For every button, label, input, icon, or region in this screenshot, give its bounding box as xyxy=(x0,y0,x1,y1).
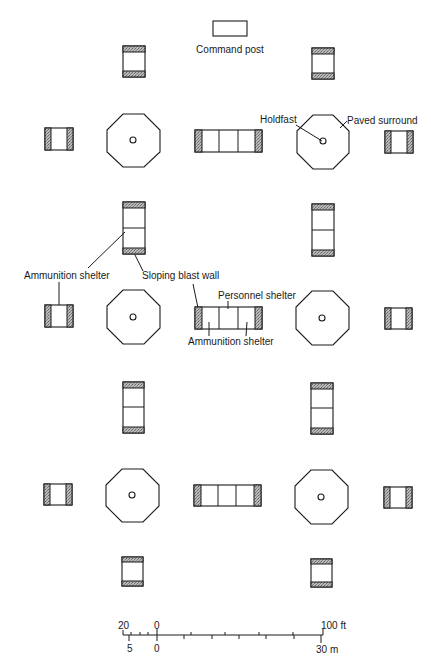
ammo-shelter-row3-left xyxy=(44,484,72,505)
scale-meters-zero: 0 xyxy=(154,643,160,654)
personnel-shelter-label: Personnel shelter xyxy=(218,290,296,301)
double-ammo-shelter-lower-left xyxy=(123,382,144,433)
triple-shelter-row3 xyxy=(194,485,261,506)
double-ammo-shelter-upper-left xyxy=(123,202,145,254)
ammunition-shelter-label-center: Ammunition shelter xyxy=(188,336,274,347)
sloping-blast-wall-label: Sloping blast wall xyxy=(142,270,219,281)
scale-feet-left: 20 xyxy=(118,620,130,631)
ammo-shelter-row1-right xyxy=(385,131,413,153)
triple-shelter-row1 xyxy=(195,130,262,152)
blast-wall-leader-lower xyxy=(193,284,198,308)
gun-pad-row3-left xyxy=(106,469,159,522)
ammo-shelter-row2-right xyxy=(385,308,412,329)
paved-surround-label: Paved surround xyxy=(347,115,418,126)
double-ammo-shelter-lower-right xyxy=(311,383,333,434)
command-post xyxy=(213,21,247,36)
gun-pad-row2-right xyxy=(296,291,349,345)
ammo-shelter-bottom-left xyxy=(122,557,143,586)
ammo-shelter-top-right xyxy=(312,48,334,79)
gun-pad-row3-right xyxy=(295,470,348,524)
ammo-shelter-row2-left xyxy=(45,305,73,327)
triple-shelter-row2 xyxy=(195,307,262,329)
scale-meters-left: 5 xyxy=(127,643,133,654)
command-post-label: Command post xyxy=(196,44,264,55)
ammo-shelter-top-left xyxy=(123,46,145,77)
gun-pad-row1-right xyxy=(297,115,349,169)
scale-feet-zero: 0 xyxy=(154,620,160,631)
blast-wall-leader-upper xyxy=(135,255,143,271)
site-plan-diagram: Command post Holdfast Paved surr xyxy=(0,0,431,671)
ammunition-shelter-label-left: Ammunition shelter xyxy=(24,270,110,281)
gun-pad-row1-left xyxy=(107,114,160,167)
ammo-shelter-bottom-right xyxy=(311,559,332,587)
scale-feet-right: 100 ft xyxy=(321,620,346,631)
ammo-shelter-row1-left xyxy=(45,128,73,150)
double-ammo-shelter-upper-right xyxy=(312,204,334,256)
scale-bar xyxy=(123,629,323,643)
scale-meters-right: 30 m xyxy=(316,644,338,655)
holdfast-label: Holdfast xyxy=(260,114,297,125)
ammo-shelter-leader-diagonal xyxy=(88,232,125,268)
gun-pad-row2-left xyxy=(107,290,160,344)
ammo-shelter-row3-right xyxy=(384,487,412,508)
